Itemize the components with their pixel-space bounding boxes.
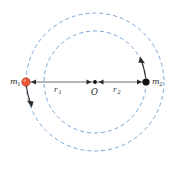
- velocity-arrow-mass-2-shaft: [142, 61, 146, 78]
- radius-1-label: r 1: [54, 86, 62, 95]
- mass-1-label-sub: 1: [17, 81, 20, 87]
- mass-1-body: [22, 78, 30, 86]
- r2-arrowhead-right: [137, 80, 142, 85]
- mass-2-label: m 2: [152, 77, 163, 87]
- radius-2-label: r 2: [113, 86, 121, 95]
- r1-arrowhead-left: [31, 80, 36, 85]
- mass-1-highlight: [23, 79, 26, 82]
- r1-arrowhead-right: [87, 80, 92, 85]
- r2-arrowhead-left: [99, 80, 104, 85]
- orbit-diagram: m 1 m 2 r 1 r 2 O: [0, 0, 179, 170]
- center-of-mass-point: [93, 80, 97, 84]
- radius-1-label-base: r: [54, 86, 58, 94]
- mass-1-label: m 1: [10, 77, 21, 87]
- mass-2-body: [142, 78, 149, 85]
- radius-1-label-sub: 1: [58, 89, 61, 95]
- mass-2-label-sub: 2: [158, 81, 162, 87]
- radius-2-label-base: r: [113, 86, 117, 94]
- radius-2-label-sub: 2: [116, 89, 120, 95]
- center-of-mass-label: O: [91, 87, 98, 97]
